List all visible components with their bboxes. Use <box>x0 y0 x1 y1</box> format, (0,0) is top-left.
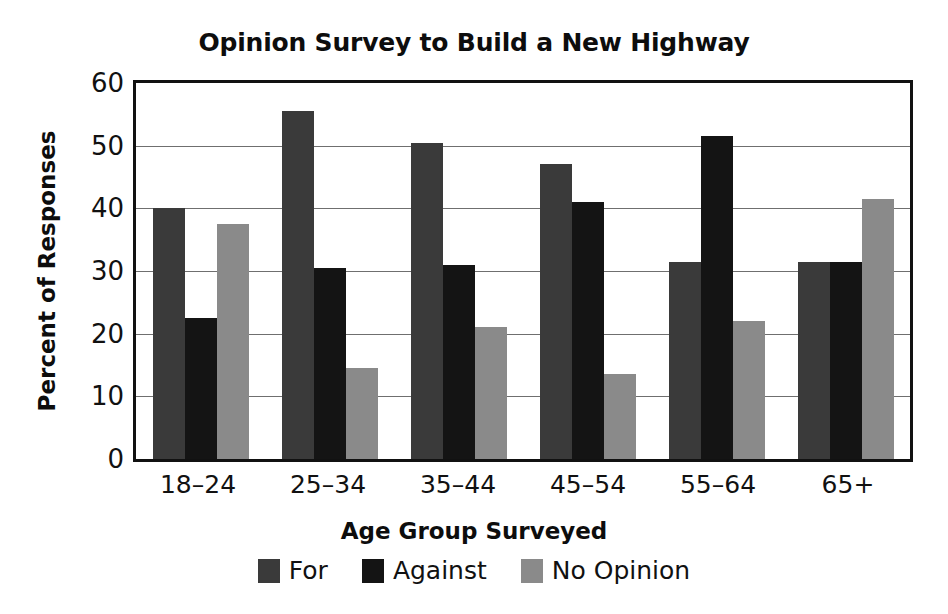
legend-label: For <box>289 556 328 585</box>
y-tick-label: 20 <box>60 319 124 349</box>
legend-item[interactable]: No Opinion <box>521 556 690 585</box>
x-tick-label: 65+ <box>783 470 913 499</box>
legend-item[interactable]: Against <box>362 556 487 585</box>
bar-group <box>394 83 523 459</box>
legend-label: No Opinion <box>552 556 690 585</box>
y-tick-label: 40 <box>60 193 124 223</box>
legend-item[interactable]: For <box>258 556 328 585</box>
x-axis-ticks: 18–2425–3435–4445–5455–6465+ <box>133 470 913 499</box>
bar[interactable] <box>411 143 443 459</box>
bar-groups <box>136 83 910 459</box>
bar-group <box>136 83 265 459</box>
y-tick-label: 30 <box>60 256 124 286</box>
bar[interactable] <box>443 265 475 459</box>
bar[interactable] <box>540 164 572 459</box>
x-tick-label: 18–24 <box>133 470 263 499</box>
bar[interactable] <box>862 199 894 459</box>
bar-chart: Opinion Survey to Build a New Highway Pe… <box>0 0 948 614</box>
bar[interactable] <box>830 262 862 459</box>
x-axis-title: Age Group Surveyed <box>0 518 948 544</box>
bar[interactable] <box>475 327 507 459</box>
y-tick-label: 60 <box>60 68 124 98</box>
legend-label: Against <box>393 556 487 585</box>
legend-swatch-icon <box>521 559 543 583</box>
bar[interactable] <box>153 208 185 459</box>
bar-group <box>652 83 781 459</box>
chart-title: Opinion Survey to Build a New Highway <box>0 28 948 57</box>
legend-swatch-icon <box>362 559 384 583</box>
bar[interactable] <box>217 224 249 459</box>
bar[interactable] <box>572 202 604 459</box>
y-tick-label: 10 <box>60 381 124 411</box>
bar[interactable] <box>604 374 636 459</box>
bar[interactable] <box>798 262 830 459</box>
bar[interactable] <box>282 111 314 459</box>
chart-legend: ForAgainstNo Opinion <box>0 556 948 585</box>
x-tick-label: 35–44 <box>393 470 523 499</box>
legend-swatch-icon <box>258 559 280 583</box>
bar[interactable] <box>701 136 733 459</box>
y-tick-label: 0 <box>60 444 124 474</box>
bar[interactable] <box>314 268 346 459</box>
bar[interactable] <box>733 321 765 459</box>
y-tick-label: 50 <box>60 131 124 161</box>
bar[interactable] <box>185 318 217 459</box>
plot-area <box>133 80 913 462</box>
bar-group <box>523 83 652 459</box>
bar[interactable] <box>669 262 701 459</box>
bar-group <box>265 83 394 459</box>
bar-group <box>781 83 910 459</box>
x-tick-label: 45–54 <box>523 470 653 499</box>
x-tick-label: 55–64 <box>653 470 783 499</box>
x-tick-label: 25–34 <box>263 470 393 499</box>
bar[interactable] <box>346 368 378 459</box>
